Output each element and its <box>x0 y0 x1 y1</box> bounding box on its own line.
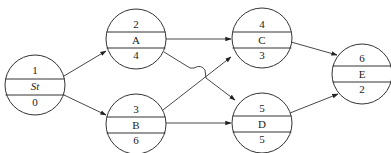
node-d: 5 D 5 <box>232 93 292 153</box>
node-duration: 4 <box>133 49 139 61</box>
edge-c-to-e <box>291 42 337 55</box>
node-st: 1 St 0 <box>5 55 65 115</box>
node-name: E <box>359 68 366 80</box>
node-number: 1 <box>32 64 38 76</box>
node-number: 2 <box>133 18 139 30</box>
node-name: A <box>132 34 140 46</box>
node-b: 3 B 6 <box>106 94 166 153</box>
node-number: 6 <box>359 52 365 64</box>
node-duration: 2 <box>359 83 365 95</box>
network-diagram: 1 St 0 2 A 4 3 B 6 4 C 3 5 D 5 <box>0 0 391 153</box>
edges <box>64 39 338 123</box>
node-duration: 3 <box>259 49 265 61</box>
node-duration: 0 <box>32 96 38 108</box>
node-duration: 6 <box>133 134 139 146</box>
node-duration: 5 <box>259 133 265 145</box>
node-e: 6 E 2 <box>332 44 391 104</box>
edge-b-to-c <box>163 57 231 110</box>
node-name: D <box>258 118 266 130</box>
node-name: St <box>31 80 41 92</box>
edge-st-to-b <box>64 95 106 115</box>
node-number: 3 <box>133 103 139 115</box>
node-number: 5 <box>259 102 265 114</box>
node-name: C <box>258 34 265 46</box>
edge-a-to-d <box>164 52 235 100</box>
edge-d-to-e <box>290 94 338 113</box>
node-number: 4 <box>259 18 265 30</box>
node-a: 2 A 4 <box>106 9 166 69</box>
node-name: B <box>132 119 139 131</box>
edge-st-to-a <box>64 51 106 76</box>
node-c: 4 C 3 <box>232 8 292 68</box>
